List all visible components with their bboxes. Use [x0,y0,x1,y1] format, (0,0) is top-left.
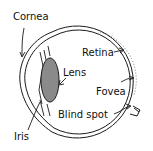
arrow-blind-spot [114,106,130,114]
optic-nerve [130,106,140,116]
label-fovea: Fovea [96,86,126,97]
eye-diagram: Cornea Retina Lens Fovea Blind spot Iris [0,0,153,151]
lens [41,58,59,102]
arrow-iris [28,102,40,130]
label-lens: Lens [63,67,86,78]
label-cornea: Cornea [13,11,49,22]
arrow-lens [60,78,66,84]
label-iris: Iris [14,131,29,142]
label-retina: Retina [82,47,114,58]
arrow-cornea [22,28,24,56]
arrow-fovea [121,78,133,82]
label-blind-spot: Blind spot [58,109,108,120]
